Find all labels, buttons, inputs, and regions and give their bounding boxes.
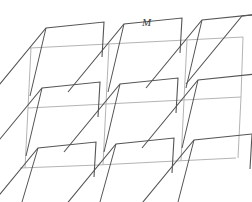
motif-row0-col0 <box>0 22 104 96</box>
motif-row1-col0 <box>0 82 100 156</box>
grid-row-top <box>30 37 243 48</box>
grid-layer <box>20 37 243 168</box>
grid-row-middle <box>28 97 241 108</box>
label-M: M <box>141 16 152 28</box>
motif-row2-col0 <box>0 142 96 202</box>
lattice-diagram-canvas: M <box>0 0 252 202</box>
grid-row-bottom <box>20 158 236 168</box>
motif-row0-col2 <box>146 14 252 88</box>
steep-stroke-c0 <box>22 148 38 202</box>
steep-stroke-c1 <box>100 144 116 202</box>
motif-row2-col2 <box>138 134 252 202</box>
motif-row0-col1 <box>68 18 182 92</box>
motif-row1-col1 <box>64 78 178 152</box>
lattice-figure: M <box>0 0 252 202</box>
motif-row2-col1 <box>60 138 174 202</box>
